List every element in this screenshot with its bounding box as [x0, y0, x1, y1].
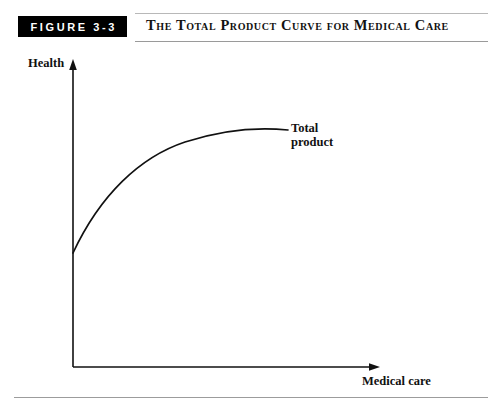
figure-page: FIGURE 3-3 The Total Product Curve for M…	[0, 0, 501, 410]
curve-annotation-line2: product	[291, 135, 333, 149]
y-axis-label: Health	[28, 56, 64, 71]
y-axis-arrowhead	[69, 59, 77, 70]
chart-svg	[0, 45, 501, 385]
footer-rule	[14, 397, 488, 398]
x-axis-arrowhead	[369, 363, 380, 371]
curve-annotation: Total product	[291, 121, 333, 149]
x-axis-label: Medical care	[362, 374, 431, 389]
total-product-curve	[73, 129, 288, 253]
curve-annotation-line1: Total	[291, 121, 333, 135]
figure-title: The Total Product Curve for Medical Care	[146, 17, 449, 34]
chart-plot-area: Health Medical care Total product	[0, 45, 501, 385]
header-rule-bottom	[135, 41, 488, 42]
figure-number-badge: FIGURE 3-3	[18, 16, 127, 37]
header-rule-top	[135, 13, 488, 14]
